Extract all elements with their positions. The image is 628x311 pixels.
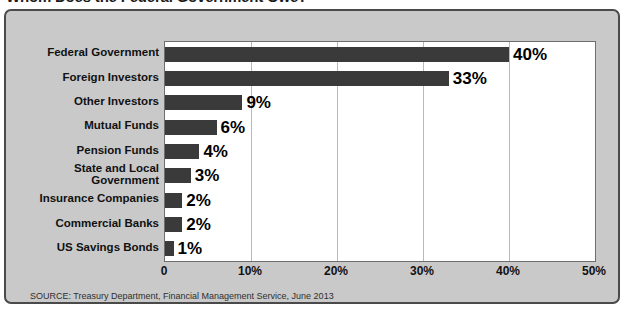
bar-value-label: 40%: [513, 46, 547, 63]
bar-value-label: 6%: [221, 119, 246, 136]
bar-row: 6%: [165, 115, 595, 139]
bar-row: 4%: [165, 139, 595, 163]
category-label-line: Federal Government: [47, 47, 159, 59]
bar-value-label: 9%: [246, 94, 271, 111]
x-axis: 010%20%30%40%50%: [164, 264, 596, 282]
bar-row: 2%: [165, 212, 595, 236]
chart-panel: Federal GovernmentForeign InvestorsOther…: [4, 9, 620, 304]
bar-row: 1%: [165, 237, 595, 261]
bar-row: 33%: [165, 66, 595, 90]
category-label-line: Pension Funds: [77, 145, 159, 157]
plot-area: 40%33%9%6%4%3%2%2%1%: [164, 41, 596, 262]
bar: [165, 120, 217, 135]
x-tick-label: 20%: [324, 264, 348, 278]
x-tick-label: 50%: [582, 264, 606, 278]
category-label: Other Investors: [11, 90, 159, 114]
category-label: Commercial Banks: [11, 211, 159, 235]
chart-screenshot: Whom Does the Federal Government Owe? Fe…: [0, 0, 628, 311]
category-label-line: Commercial Banks: [55, 218, 159, 230]
bar-value-label: 33%: [453, 70, 487, 87]
category-label-column: Federal GovernmentForeign InvestorsOther…: [6, 41, 159, 262]
category-label: Federal Government: [11, 41, 159, 65]
category-label: Mutual Funds: [11, 114, 159, 138]
bar-value-label: 3%: [195, 167, 220, 184]
category-label: State and LocalGovernment: [11, 163, 159, 187]
bar: [165, 241, 174, 256]
x-tick-label: 10%: [238, 264, 262, 278]
bar: [165, 168, 191, 183]
bar-row: 9%: [165, 91, 595, 115]
category-label-line: Mutual Funds: [84, 120, 159, 132]
bar-value-label: 2%: [186, 192, 211, 209]
bar: [165, 193, 182, 208]
category-label: Foreign Investors: [11, 65, 159, 89]
category-label: US Savings Bonds: [11, 236, 159, 260]
x-tick-label: 30%: [410, 264, 434, 278]
source-note: SOURCE: Treasury Department, Financial M…: [30, 291, 334, 301]
bar: [165, 71, 449, 86]
category-label-line: Insurance Companies: [39, 193, 159, 205]
x-tick-label: 40%: [496, 264, 520, 278]
category-label-line: Foreign Investors: [63, 72, 160, 84]
chart-headline: Whom Does the Federal Government Owe?: [6, 0, 307, 5]
bar: [165, 144, 199, 159]
category-label-line: US Savings Bonds: [57, 242, 159, 254]
category-label-line: Government: [91, 175, 159, 187]
x-tick-label: 0: [161, 264, 168, 278]
bar-row: 2%: [165, 188, 595, 212]
bar-value-label: 1%: [178, 240, 203, 257]
category-label: Insurance Companies: [11, 187, 159, 211]
bar-row: 40%: [165, 42, 595, 66]
bar-value-label: 2%: [186, 216, 211, 233]
bar-row: 3%: [165, 164, 595, 188]
category-label-line: Other Investors: [74, 96, 159, 108]
bar: [165, 217, 182, 232]
bar-value-label: 4%: [203, 143, 228, 160]
bar: [165, 95, 242, 110]
category-label: Pension Funds: [11, 138, 159, 162]
bar: [165, 47, 509, 62]
